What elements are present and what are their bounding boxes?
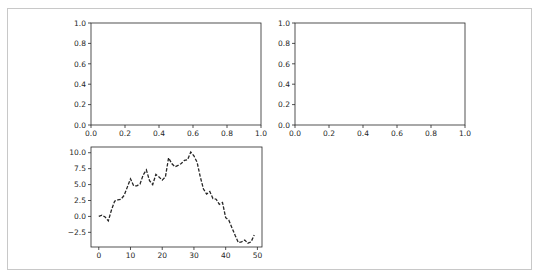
x-tick-label: 1.0 [459,129,471,138]
y-tick-label: 7.5 [74,164,86,173]
axes-frame [295,23,465,125]
x-tick-label: 0.4 [153,129,165,138]
y-tick-label: 0.6 [278,60,290,69]
y-tick-label: 1.0 [278,19,290,28]
x-tick-label: 50 [253,251,263,260]
y-tick-label: −2.5 [68,228,86,237]
x-tick-label: 20 [157,251,167,260]
y-tick-label: 0.0 [74,121,86,130]
axes-top-left: 0.00.20.40.60.81.00.00.20.40.60.81.0 [74,19,267,138]
y-tick-label: 0.0 [74,212,86,221]
data-line [99,152,254,243]
y-tick-label: 10.0 [69,148,86,157]
x-tick-label: 0.6 [391,129,403,138]
x-tick-label: 10 [126,251,136,260]
y-tick-label: 0.4 [74,80,86,89]
y-tick-label: 0.2 [74,100,86,109]
y-tick-label: 0.8 [278,39,290,48]
y-tick-label: 0.6 [74,60,86,69]
y-tick-label: 2.5 [74,196,86,205]
x-tick-label: 0.0 [289,129,301,138]
x-tick-label: 1.0 [255,129,267,138]
x-tick-label: 0.2 [119,129,131,138]
x-tick-label: 0.6 [187,129,199,138]
x-tick-label: 0.4 [357,129,369,138]
y-tick-label: 1.0 [74,19,86,28]
x-tick-label: 40 [221,251,231,260]
x-tick-label: 0.2 [323,129,335,138]
x-tick-label: 0.8 [221,129,233,138]
chart-canvas: 0.00.20.40.60.81.00.00.20.40.60.81.0 0.0… [0,0,540,279]
y-tick-label: 0.4 [278,80,290,89]
axes-bottom-left: 0102030405010.07.55.02.50.0−2.5 [68,147,263,260]
axes-frame [91,23,261,125]
y-tick-label: 0.2 [278,100,290,109]
y-tick-label: 0.8 [74,39,86,48]
y-tick-label: 0.0 [278,121,290,130]
axes-frame [91,147,262,247]
x-tick-label: 0 [96,251,101,260]
x-tick-label: 0.0 [85,129,97,138]
x-tick-label: 0.8 [425,129,437,138]
x-tick-label: 30 [189,251,199,260]
axes-top-right: 0.00.20.40.60.81.00.00.20.40.60.81.0 [278,19,471,138]
y-tick-label: 5.0 [74,180,86,189]
